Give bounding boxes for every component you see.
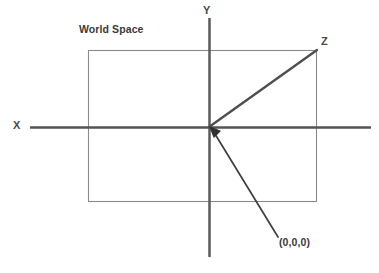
origin-pointer-line bbox=[215, 134, 278, 237]
z-axis-line bbox=[209, 50, 317, 127]
y-axis-label: Y bbox=[203, 5, 210, 16]
z-axis-label: Z bbox=[321, 36, 328, 47]
x-axis-label: X bbox=[13, 120, 20, 131]
origin-coordinate-label: (0,0,0) bbox=[279, 237, 310, 248]
world-space-title: World Space bbox=[79, 24, 144, 35]
world-space-diagram: World Space X Y Z (0,0,0) bbox=[0, 0, 379, 273]
world-space-rectangle bbox=[89, 51, 317, 202]
